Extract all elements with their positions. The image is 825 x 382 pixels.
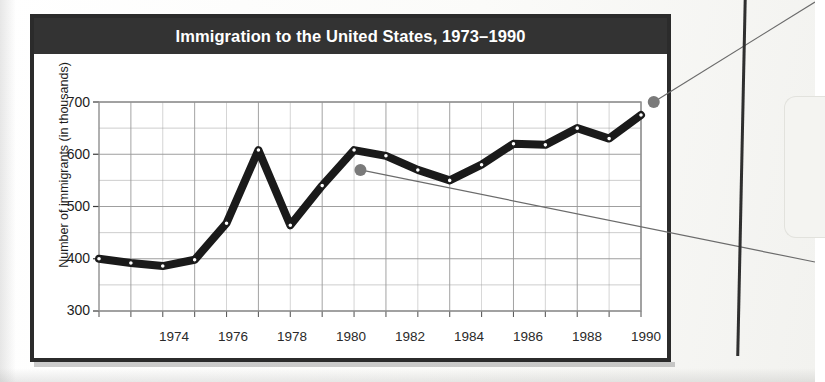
data-point-marker (160, 264, 165, 269)
data-point-marker (511, 141, 516, 146)
data-point-marker (288, 223, 293, 228)
data-point-marker (320, 183, 325, 188)
plot-area-wrapper: Number of immigrants (in thousands) 700 … (34, 54, 667, 358)
chart-title-bar: Immigration to the United States, 1973–1… (34, 18, 667, 54)
data-point-marker (384, 153, 389, 158)
data-point-marker (352, 148, 357, 153)
scan-shadow-left (0, 0, 16, 382)
data-point-marker (479, 162, 484, 167)
data-point-marker (607, 136, 612, 141)
data-point-marker (256, 148, 261, 153)
data-point-marker (128, 261, 133, 266)
data-point-marker (192, 257, 197, 262)
data-point-marker (575, 126, 580, 131)
figure-drop-shadow (34, 362, 675, 367)
data-series-line (99, 115, 641, 266)
scan-shadow-bottom (0, 368, 815, 382)
data-point-marker (415, 168, 420, 173)
figure-frame: Immigration to the United States, 1973–1… (30, 14, 671, 362)
data-point-marker (224, 221, 229, 226)
data-point-marker (447, 178, 452, 183)
data-point-marker (639, 113, 644, 118)
chart-plot (34, 54, 667, 358)
chart-title: Immigration to the United States, 1973–1… (176, 27, 526, 46)
data-point-marker (543, 142, 548, 147)
data-point-marker (97, 256, 102, 261)
margin-note-box (784, 96, 825, 238)
